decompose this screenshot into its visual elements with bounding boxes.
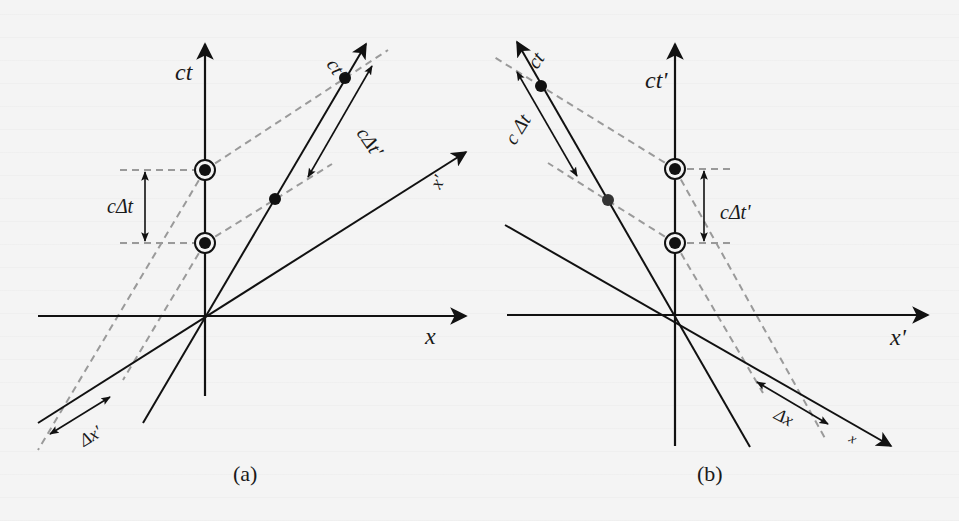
- panel-a-caption: (a): [233, 461, 257, 486]
- x-label: x: [424, 323, 436, 349]
- figure-page: ct x ct' x' cΔt cΔt' Δx' (a): [0, 0, 959, 521]
- dashed-construction-lines: [494, 57, 826, 440]
- event-dot-lower: [602, 194, 614, 206]
- event-ring-lower: [195, 233, 215, 253]
- panel-b: ct' x' ct c Δt cΔt' Δx x (b): [494, 42, 928, 486]
- c-delta-t-label: cΔt: [107, 195, 134, 217]
- x-label: x: [846, 430, 860, 447]
- c-delta-t-prime-label: cΔt': [353, 123, 389, 161]
- ct-axis: [517, 42, 750, 447]
- ct-label: ct: [175, 59, 194, 85]
- event-ring-lower: [665, 233, 685, 253]
- event-ring-upper: [665, 159, 685, 179]
- x-axis: [505, 225, 891, 446]
- delta-x-prime-label: Δx': [75, 421, 106, 451]
- c-delta-t-prime-label: cΔt': [720, 201, 751, 223]
- ct-label: ct: [522, 47, 549, 72]
- event-ring-upper: [195, 160, 215, 180]
- c-delta-t-label: c Δt: [500, 110, 535, 148]
- delta-x-label: Δx: [770, 403, 797, 430]
- delta-x-prime-arrow: [50, 397, 110, 434]
- x-prime-axis: [38, 152, 466, 423]
- panel-a: ct x ct' x' cΔt cΔt' Δx' (a): [38, 44, 466, 486]
- panel-b-caption: (b): [697, 461, 723, 486]
- event-dot-lower: [269, 193, 281, 205]
- x-prime-label: x': [889, 324, 907, 350]
- ct-prime-label: ct': [645, 67, 668, 93]
- ct-prime-axis: [143, 44, 366, 423]
- event-dot-upper: [535, 80, 547, 92]
- spacetime-diagrams: ct x ct' x' cΔt cΔt' Δx' (a): [0, 0, 959, 521]
